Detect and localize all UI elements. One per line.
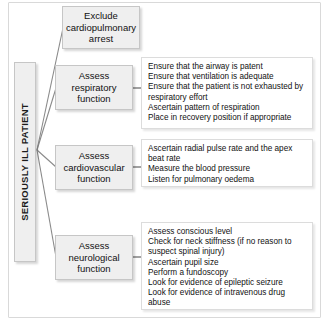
stage-title-line-3: function [77, 263, 110, 274]
detail-line: Look for evidence of intravenous drug ab… [148, 288, 307, 308]
detail-line: Ensure that the patient is not exhausted… [148, 82, 307, 102]
flowchart-figure: SERIOUSLY ILL PATIENT Exclude cardiopulm… [0, 0, 326, 336]
stage-title-line-3: function [77, 173, 110, 184]
detail-line: Ensure that ventilation is adequate [148, 72, 307, 82]
detail-line: Listen for pulmonary oedema [148, 175, 307, 185]
stage-box-assess-respiratory-function: Assess respiratory function [55, 65, 133, 110]
stage-title-line-3: function [77, 93, 110, 104]
stage-title-line-1: Assess [79, 240, 110, 251]
stage-title-line-1: Assess [79, 150, 110, 161]
detail-line: Ensure that the airway is patent [148, 62, 307, 72]
detail-panel-cardiovascular: Ascertain radial pulse rate and the apex… [141, 139, 313, 187]
spine-label: SERIOUSLY ILL PATIENT [20, 103, 30, 221]
detail-line: Assess conscious level [148, 227, 307, 237]
detail-panel-respiratory: Ensure that the airway is patent Ensure … [141, 57, 313, 129]
stage-title-line-2: respiratory [72, 82, 117, 93]
stage-box-assess-neurological-function: Assess neurological function [55, 235, 133, 280]
stage-title-line-2: cardiovascular [63, 162, 124, 173]
detail-line: Check for neck stiffness (if no reason t… [148, 237, 307, 257]
detail-panel-neurological: Assess conscious level Check for neck st… [141, 222, 313, 310]
detail-line: Look for evidence of epileptic seizure [148, 278, 307, 288]
detail-line: Place in recovery position if appropriat… [148, 113, 307, 123]
stage-box-exclude-cardiopulmonary-arrest: Exclude cardiopulmonary arrest [62, 6, 140, 49]
stage-title: Assess cardiovascular function [61, 150, 126, 185]
stage-title: Assess neurological function [66, 240, 121, 275]
stage-title-line-2: neurological [68, 252, 119, 263]
stage-title-line-2: cardiopulmonary [66, 22, 136, 33]
detail-line: Perform a fundoscopy [148, 268, 307, 278]
detail-line: Ascertain pupil size [148, 258, 307, 268]
stage-title: Exclude cardiopulmonary arrest [64, 10, 138, 45]
stage-title-line-3: arrest [89, 33, 113, 44]
stage-title: Assess respiratory function [70, 70, 119, 105]
detail-line: Measure the blood pressure [148, 164, 307, 174]
detail-line: Ascertain pattern of respiration [148, 103, 307, 113]
stage-title-line-1: Assess [79, 70, 110, 81]
stage-title-line-1: Exclude [84, 10, 118, 21]
stage-box-assess-cardiovascular-function: Assess cardiovascular function [55, 145, 133, 190]
seriously-ill-patient-spine: SERIOUSLY ILL PATIENT [14, 62, 36, 262]
detail-line: Ascertain radial pulse rate and the apex… [148, 144, 307, 164]
